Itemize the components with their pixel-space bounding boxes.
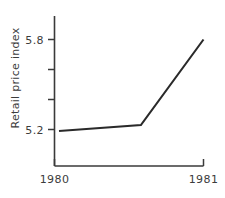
x-tick-label-left: 1980 <box>40 173 70 186</box>
y-tick-label-high: 5.8 <box>25 34 44 47</box>
x-tick-label-right: 1981 <box>189 173 219 186</box>
y-tick-label-low: 5.2 <box>25 124 44 137</box>
data-series-retail-price-index <box>59 40 204 132</box>
y-axis-title: Retail price index <box>9 27 22 128</box>
line-chart: 5.8 5.2 1980 1981 Retail price index <box>0 0 225 198</box>
chart-canvas: 5.8 5.2 1980 1981 Retail price index <box>0 0 225 198</box>
